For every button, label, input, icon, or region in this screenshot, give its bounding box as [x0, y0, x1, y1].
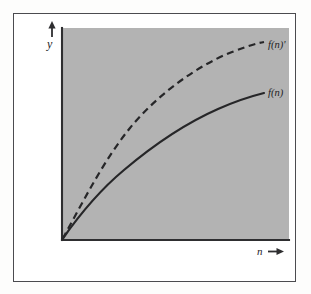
- x-axis-label: n: [257, 246, 263, 257]
- arrow-up-icon: [48, 21, 55, 37]
- curve-lower-solid: [63, 93, 265, 239]
- figure-root: y n f(n)' f(n): [0, 0, 311, 294]
- arrow-right-icon: [268, 248, 284, 255]
- curve-label-upper: f(n)': [268, 40, 285, 51]
- curve-label-lower: f(n): [268, 88, 283, 99]
- y-axis-label: y: [47, 38, 52, 50]
